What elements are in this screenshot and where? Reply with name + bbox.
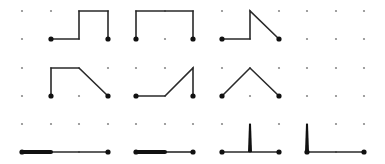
grid-dot	[363, 95, 365, 97]
lattice-path-diagram	[0, 0, 385, 164]
endpoint-marker	[48, 36, 53, 41]
grid-dot	[164, 38, 166, 40]
grid-dot	[78, 95, 80, 97]
endpoint-marker	[276, 93, 281, 98]
panel-p3	[219, 11, 281, 42]
panel-p12	[304, 124, 366, 155]
grid-dot	[363, 123, 365, 125]
panel-p11	[219, 124, 281, 155]
path-shapes	[19, 11, 366, 155]
lattice-path	[136, 68, 193, 96]
panel-p6	[133, 68, 195, 99]
grid-dot	[50, 10, 52, 12]
grid-dot	[278, 10, 280, 12]
endpoint-marker	[304, 149, 309, 154]
endpoint-marker	[190, 149, 195, 154]
grid-dot	[21, 38, 23, 40]
grid-dot	[135, 67, 137, 69]
endpoint-marker	[105, 36, 110, 41]
grid-dot	[249, 95, 251, 97]
panel-p9	[19, 149, 110, 154]
grid-dot	[335, 95, 337, 97]
grid-dot	[335, 123, 337, 125]
grid-dot	[363, 38, 365, 40]
panel-p7	[219, 68, 281, 99]
endpoint-marker	[133, 93, 138, 98]
grid-dot	[306, 67, 308, 69]
endpoint-marker	[19, 149, 24, 154]
endpoint-marker	[133, 36, 138, 41]
grid-dot	[107, 67, 109, 69]
endpoint-marker	[48, 93, 53, 98]
panel-p5	[48, 68, 110, 99]
lattice-path	[222, 68, 279, 96]
endpoint-marker	[276, 36, 281, 41]
endpoint-marker	[219, 93, 224, 98]
grid-dot	[21, 95, 23, 97]
grid-dot	[278, 123, 280, 125]
panel-p1	[48, 11, 110, 42]
grid-dot	[335, 38, 337, 40]
grid-dot	[50, 123, 52, 125]
endpoint-marker	[190, 93, 195, 98]
collapsed-spike	[305, 124, 309, 152]
grid-dot	[192, 123, 194, 125]
grid-dot	[306, 10, 308, 12]
endpoint-marker	[105, 93, 110, 98]
endpoint-marker	[219, 36, 224, 41]
grid-dot	[306, 38, 308, 40]
endpoint-marker	[276, 149, 281, 154]
grid-dot	[221, 123, 223, 125]
grid-dot	[335, 10, 337, 12]
panel-p10	[133, 149, 195, 154]
lattice-path	[136, 11, 193, 39]
endpoint-marker	[133, 149, 138, 154]
grid-dot	[221, 67, 223, 69]
grid-dot	[306, 95, 308, 97]
grid-dot	[78, 123, 80, 125]
grid-dot	[107, 123, 109, 125]
lattice-path	[222, 11, 279, 39]
grid-dot	[363, 67, 365, 69]
grid-dot	[21, 67, 23, 69]
panel-p2	[133, 11, 195, 42]
grid-dot	[278, 67, 280, 69]
grid-dot	[363, 10, 365, 12]
endpoint-marker	[190, 36, 195, 41]
collapsed-spike	[248, 124, 252, 152]
grid-dot	[164, 67, 166, 69]
grid-dot	[21, 10, 23, 12]
grid-dot	[335, 67, 337, 69]
lattice-path	[51, 68, 108, 96]
grid-dot	[221, 10, 223, 12]
endpoint-marker	[105, 149, 110, 154]
lattice-path	[51, 11, 108, 39]
endpoint-marker	[361, 149, 366, 154]
endpoint-marker	[219, 149, 224, 154]
grid-dot	[135, 123, 137, 125]
grid-dot	[164, 123, 166, 125]
grid-dot	[21, 123, 23, 125]
